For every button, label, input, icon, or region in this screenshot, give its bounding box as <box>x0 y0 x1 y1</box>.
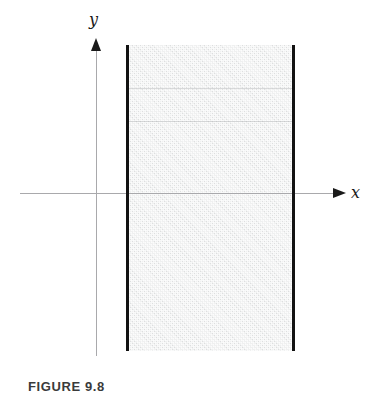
x-axis-label: x <box>351 185 360 201</box>
figure-caption: FIGURE 9.8 <box>28 379 105 394</box>
region-hairline-lower <box>129 121 292 122</box>
plot-area: y x <box>0 0 371 394</box>
y-axis-line <box>96 44 97 356</box>
region-hairline-upper <box>129 88 292 89</box>
y-axis-label: y <box>89 12 98 28</box>
y-axis-arrow-icon <box>91 38 101 51</box>
right-boundary-line <box>292 45 295 351</box>
x-axis-line <box>20 193 336 194</box>
x-axis-arrow-icon <box>333 188 346 198</box>
left-boundary-line <box>126 45 129 351</box>
shaded-region <box>127 45 294 351</box>
figure-container: y x FIGURE 9.8 <box>0 0 371 394</box>
